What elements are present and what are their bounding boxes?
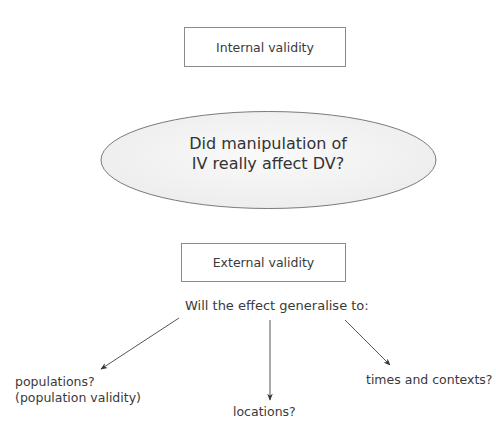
target-times-and-contexts: times and contexts? bbox=[366, 372, 492, 388]
target-populations: populations? (population validity) bbox=[15, 374, 141, 406]
target-times-label: times and contexts? bbox=[366, 372, 492, 388]
external-validity-box: External validity bbox=[181, 243, 346, 282]
diagram-canvas: Internal validity Did manipulation of IV… bbox=[0, 0, 496, 439]
external-validity-label: External validity bbox=[213, 255, 315, 270]
target-locations-label: locations? bbox=[233, 404, 296, 420]
target-populations-line-1: populations? bbox=[15, 374, 141, 390]
central-question-line-2: IV really affect DV? bbox=[168, 154, 368, 174]
internal-validity-box: Internal validity bbox=[184, 27, 346, 67]
target-locations: locations? bbox=[233, 404, 296, 420]
generalise-question: Will the effect generalise to: bbox=[185, 298, 369, 314]
arrow-to-times-and-contexts bbox=[345, 320, 390, 365]
central-question-text: Did manipulation of IV really affect DV? bbox=[168, 134, 368, 174]
arrow-to-populations bbox=[101, 318, 179, 369]
central-question-line-1: Did manipulation of bbox=[168, 134, 368, 154]
target-populations-line-2: (population validity) bbox=[15, 390, 141, 406]
internal-validity-label: Internal validity bbox=[216, 40, 314, 55]
